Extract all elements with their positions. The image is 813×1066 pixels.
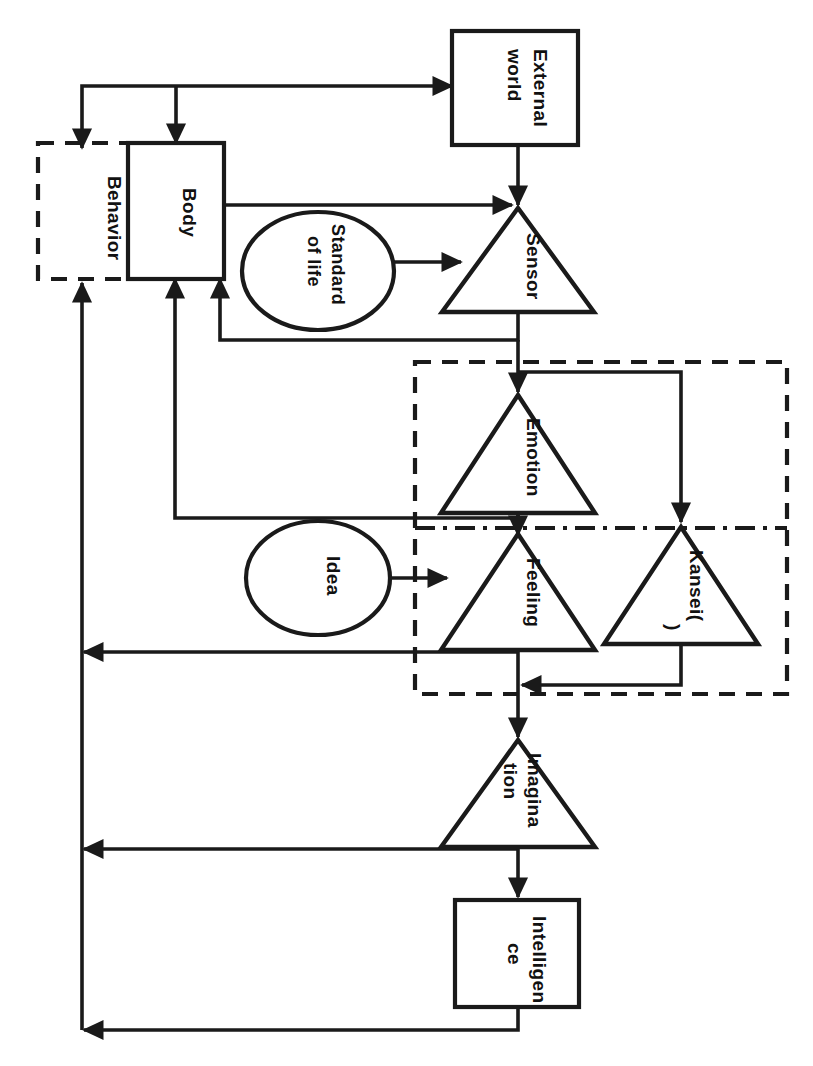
imagination-label-line1: Imagina	[524, 753, 545, 828]
body-label: Body	[179, 188, 200, 237]
node-imagination[interactable]: Imagina tion	[441, 740, 595, 847]
node-emotion[interactable]: Emotion	[441, 395, 595, 513]
node-idea[interactable]: Idea	[246, 521, 390, 635]
intelligence-label-line2: ce	[504, 943, 525, 965]
node-standard-of-life[interactable]: Standard of life	[242, 212, 394, 330]
emotion-label: Emotion	[523, 418, 544, 497]
behavior-label: Behavior	[104, 176, 125, 261]
feeling-label: Feeling	[523, 558, 544, 627]
edge-behavior-to-external-world	[82, 86, 452, 148]
kansei-label-line1: Kansei(	[686, 550, 707, 622]
sensor-label: Sensor	[523, 233, 544, 300]
node-external-world[interactable]: External world	[452, 31, 578, 145]
node-body[interactable]: Body	[128, 143, 224, 279]
kansei-label-line2: )	[663, 624, 684, 631]
standard-of-life-label-line1: Standard	[328, 224, 348, 305]
imagination-label-line2: tion	[500, 763, 521, 799]
kansei-model-diagram: External world Behavior Body Standard of…	[0, 0, 813, 1066]
external-world-label-line1: External	[530, 49, 551, 127]
node-sensor[interactable]: Sensor	[442, 208, 594, 312]
node-intelligence[interactable]: Intelligen ce	[455, 900, 579, 1007]
idea-label: Idea	[323, 556, 344, 596]
node-kansei[interactable]: Kansei( )	[604, 527, 758, 644]
standard-of-life-label-line2: of life	[304, 236, 324, 287]
diagram-canvas: External world Behavior Body Standard of…	[0, 0, 813, 1066]
edge-intelligence-to-behavior	[84, 1007, 518, 1030]
intelligence-label-line1: Intelligen	[529, 916, 550, 1003]
external-world-label-line2: world	[504, 48, 525, 102]
node-feeling[interactable]: Feeling	[441, 534, 595, 650]
